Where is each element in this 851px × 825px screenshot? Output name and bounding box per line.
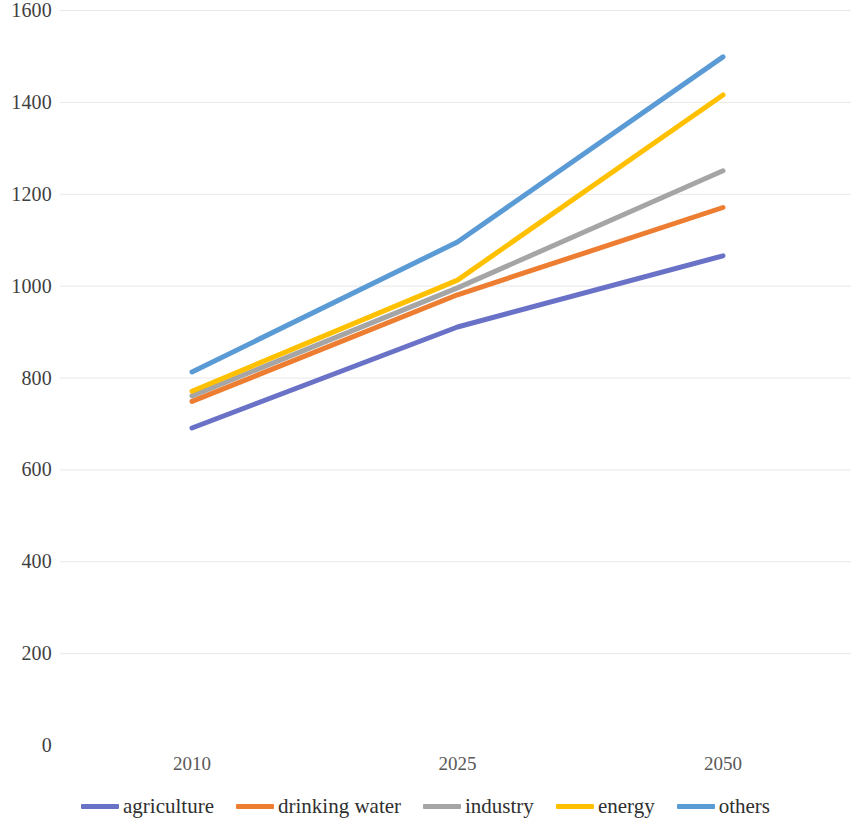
x-axis: 201020252050 — [0, 752, 851, 784]
legend-item[interactable]: agriculture — [81, 794, 214, 818]
y-tick-label: 400 — [0, 551, 52, 571]
legend-label: agriculture — [123, 794, 214, 818]
legend-item[interactable]: drinking water — [236, 794, 401, 818]
legend-item[interactable]: energy — [556, 794, 655, 818]
y-tick-label: 1200 — [0, 184, 52, 204]
plot-area — [60, 10, 851, 745]
series-line — [192, 171, 723, 396]
legend-item[interactable]: industry — [423, 794, 534, 818]
legend-label: drinking water — [278, 794, 401, 818]
legend-label: industry — [465, 794, 534, 818]
legend-swatch-icon — [677, 804, 715, 809]
legend-label: others — [719, 794, 770, 818]
y-tick-label: 200 — [0, 643, 52, 663]
y-tick-label: 1600 — [0, 0, 52, 20]
y-tick-label: 1400 — [0, 92, 52, 112]
legend-swatch-icon — [236, 804, 274, 809]
series-line — [192, 208, 723, 402]
y-tick-label: 800 — [0, 368, 52, 388]
legend-swatch-icon — [423, 804, 461, 809]
legend-item[interactable]: others — [677, 794, 770, 818]
chart-legend: agriculturedrinking waterindustryenergyo… — [0, 790, 851, 822]
line-chart: 02004006008001000120014001600 2010202520… — [0, 0, 851, 825]
y-tick-label: 600 — [0, 459, 52, 479]
series-lines — [60, 10, 851, 745]
legend-swatch-icon — [556, 804, 594, 809]
legend-label: energy — [598, 794, 655, 818]
legend-swatch-icon — [81, 804, 119, 809]
y-tick-label: 1000 — [0, 276, 52, 296]
x-tick-label: 2010 — [173, 752, 211, 776]
x-tick-label: 2025 — [439, 752, 477, 776]
y-axis: 02004006008001000120014001600 — [0, 0, 52, 755]
x-tick-label: 2050 — [704, 752, 742, 776]
